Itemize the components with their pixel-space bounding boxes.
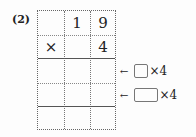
cell-r3-c0[interactable] [38, 83, 64, 107]
answer-box[interactable] [134, 64, 148, 78]
cell-r4-c2[interactable] [90, 107, 116, 131]
hint-row-2: ← ×4 [120, 88, 177, 102]
problem-number: (2) [12, 13, 30, 26]
hint-multiplier: ×4 [149, 64, 167, 78]
cell-r1-c0[interactable]: × [38, 35, 64, 59]
cell-r4-c0[interactable] [38, 107, 64, 131]
multiplication-grid: 1 9 × 4 [37, 10, 116, 130]
cell-r2-c0[interactable] [38, 59, 64, 83]
cell-r3-c1[interactable] [64, 83, 90, 107]
hint-multiplier: ×4 [159, 88, 177, 102]
cell-r1-c2[interactable]: 4 [90, 35, 116, 59]
cell-r0-c2[interactable]: 9 [90, 11, 116, 35]
left-arrow-icon: ← [120, 90, 128, 101]
cell-r2-c1[interactable] [64, 59, 90, 83]
cell-r0-c1[interactable]: 1 [64, 11, 90, 35]
hint-row-1: ← ×4 [120, 64, 167, 78]
cell-r0-c0[interactable] [38, 11, 64, 35]
answer-box[interactable] [134, 88, 158, 102]
left-arrow-icon: ← [120, 66, 128, 77]
cell-r2-c2[interactable] [90, 59, 116, 83]
cell-r3-c2[interactable] [90, 83, 116, 107]
cell-r1-c1[interactable] [64, 35, 90, 59]
cell-r4-c1[interactable] [64, 107, 90, 131]
